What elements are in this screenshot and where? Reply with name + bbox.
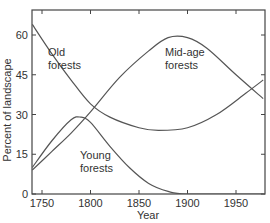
young-forests-label: Youngforests [80,149,114,174]
series-lines [32,24,263,194]
plot-area-border [32,10,265,194]
x-tick-label: 1750 [30,197,54,209]
plot-frame [32,10,265,194]
y-tick-label: 30 [16,109,28,121]
x-tick-label: 1900 [175,197,199,209]
young-forests-line [32,117,263,194]
y-axis-label: Percent of landscape [1,58,13,161]
mid-age-forests-label: Mid-ageforests [165,46,205,71]
y-tick-label: 60 [16,29,28,41]
forest-age-chart: 17501800185019001950 015304560 Oldforest… [0,0,270,223]
x-tick-label: 1800 [78,197,102,209]
y-tick-label: 15 [16,148,28,160]
old-forests-line [32,24,263,130]
y-tick-label: 0 [22,188,28,200]
x-tick-label: 1950 [224,197,248,209]
x-axis-ticks: 17501800185019001950 [30,10,248,209]
x-tick-label: 1850 [127,197,151,209]
old-forests-label: Oldforests [48,46,82,71]
mid-age-forests-line [32,36,263,170]
x-axis-label: Year [137,209,160,221]
y-tick-label: 45 [16,69,28,81]
series-labels: OldforestsMid-ageforestsYoungforests [48,46,205,174]
